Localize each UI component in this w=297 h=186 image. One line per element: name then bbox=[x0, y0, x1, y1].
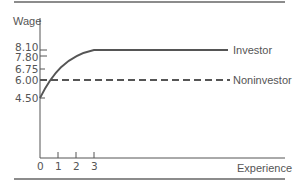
x-tick-label: 3 bbox=[91, 160, 98, 172]
noninvestor-label: Noninvestor bbox=[233, 74, 292, 86]
investor-label: Investor bbox=[233, 44, 272, 56]
x-tick-label: 1 bbox=[55, 160, 62, 172]
y-tick-label: 4.50 bbox=[15, 92, 38, 104]
x-tick-label: 0 bbox=[37, 160, 44, 172]
wage-experience-chart: Wage Experience 8.10 7.80 6.75 6.00 4.50… bbox=[0, 0, 297, 186]
y-tick-label: 6.00 bbox=[15, 74, 38, 86]
x-axis-label: Experience bbox=[237, 162, 292, 174]
investor-line bbox=[40, 50, 228, 98]
x-tick-label: 2 bbox=[73, 160, 80, 172]
y-tick-label: 7.80 bbox=[15, 51, 38, 63]
y-axis-label: Wage bbox=[13, 15, 41, 27]
